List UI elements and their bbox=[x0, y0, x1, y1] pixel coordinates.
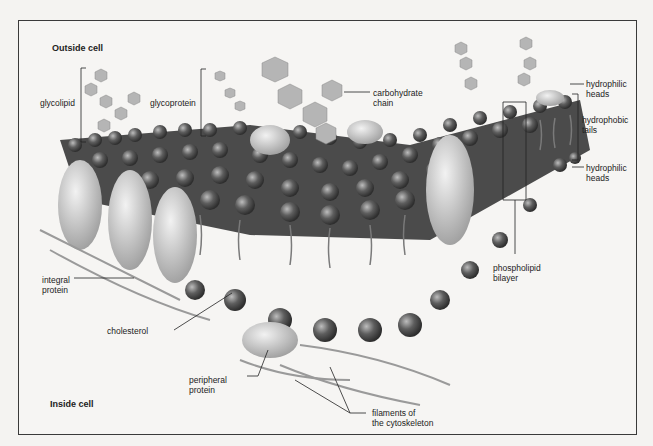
label-hydrophilic-top-line1: hydrophilic bbox=[586, 79, 627, 89]
cytoskeleton-filaments bbox=[40, 230, 450, 405]
label-phospholipid-line2: bilayer bbox=[493, 273, 518, 283]
label-glycoprotein: glycoprotein bbox=[150, 98, 196, 108]
label-phospholipid-line1: phospholipid bbox=[493, 263, 541, 273]
label-integral-protein: integral protein bbox=[42, 275, 70, 295]
label-carbohydrate-line2: chain bbox=[373, 98, 393, 108]
label-hydrophilic-heads-top: hydrophilic heads bbox=[586, 79, 627, 99]
region-label-inside: Inside cell bbox=[50, 399, 94, 409]
label-peripheral-line2: protein bbox=[189, 385, 215, 395]
label-hydrophilic-top-line2: heads bbox=[586, 89, 609, 99]
membrane-illustration bbox=[0, 0, 653, 446]
label-hydrophilic-bot-line1: hydrophilic bbox=[586, 163, 627, 173]
label-hydrophilic-bot-line2: heads bbox=[586, 173, 609, 183]
peripheral-protein-shape bbox=[242, 322, 298, 358]
label-integral-line2: protein bbox=[42, 285, 68, 295]
label-filaments-line2: the cytoskeleton bbox=[372, 418, 433, 428]
carbohydrate-chains bbox=[85, 37, 536, 144]
label-filaments-line1: filaments of bbox=[372, 408, 415, 418]
label-hydrophilic-heads-bottom: hydrophilic heads bbox=[586, 163, 627, 183]
label-peripheral-line1: peripheral bbox=[189, 375, 227, 385]
label-glycolipid: glycolipid bbox=[40, 98, 75, 108]
label-phospholipid-bilayer: phospholipid bilayer bbox=[493, 263, 541, 283]
label-carbohydrate-chain: carbohydrate chain bbox=[373, 88, 423, 108]
region-label-outside: Outside cell bbox=[52, 43, 103, 53]
label-hydrophobic-line1: hydrophobic bbox=[582, 115, 628, 125]
label-hydrophobic-tails: hydrophobic tails bbox=[582, 115, 628, 135]
label-cholesterol: cholesterol bbox=[107, 326, 148, 336]
label-integral-line1: integral bbox=[42, 275, 70, 285]
label-carbohydrate-line1: carbohydrate bbox=[373, 88, 423, 98]
label-cytoskeleton-filaments: filaments of the cytoskeleton bbox=[372, 408, 433, 428]
label-hydrophobic-line2: tails bbox=[582, 125, 597, 135]
label-peripheral-protein: peripheral protein bbox=[189, 375, 227, 395]
